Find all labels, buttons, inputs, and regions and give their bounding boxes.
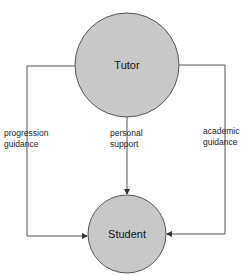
tutor-student-diagram: Tutor Student progression guidance perso… [0, 0, 242, 275]
edge-label-line: progression [4, 128, 48, 139]
academic-guidance-label: academic guidance [203, 126, 239, 148]
edge-label-line: support [110, 139, 143, 150]
edge-label-line: guidance [203, 137, 239, 148]
tutor-label: Tutor [114, 59, 139, 71]
personal-support-label: personal support [110, 128, 143, 150]
edge-label-line: guidance [4, 139, 48, 150]
edge-progression-guidance [27, 66, 87, 236]
student-label: Student [108, 228, 146, 240]
edge-label-line: personal [110, 128, 143, 139]
edge-academic-guidance [167, 65, 225, 234]
progression-guidance-label: progression guidance [4, 128, 48, 150]
edge-label-line: academic [203, 126, 239, 137]
